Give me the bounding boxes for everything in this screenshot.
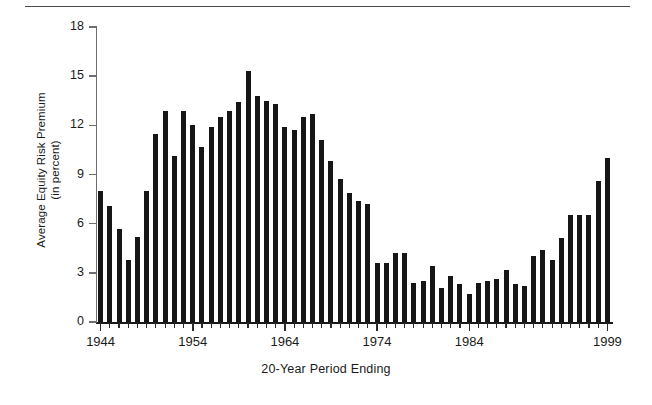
x-axis-tick-label: 1964: [255, 334, 315, 349]
bar: [126, 260, 131, 322]
x-axis-minor-tick: [247, 323, 248, 328]
x-axis-tick-label: 1999: [577, 334, 637, 349]
x-axis-minor-tick: [367, 323, 368, 328]
x-axis-minor-tick: [229, 323, 230, 328]
bar: [98, 191, 103, 322]
bar: [264, 101, 269, 322]
bar: [485, 281, 490, 322]
bar: [273, 104, 278, 322]
x-axis-minor-tick: [515, 323, 516, 328]
x-axis-minor-tick: [201, 323, 202, 328]
x-axis-major-tick: [100, 323, 101, 331]
bar: [494, 279, 499, 322]
bar: [117, 229, 122, 322]
bar: [586, 215, 591, 322]
x-axis-minor-tick: [321, 323, 322, 328]
x-axis-tick-label: 1984: [439, 334, 499, 349]
bar: [540, 250, 545, 322]
bar: [190, 125, 195, 322]
x-axis-minor-tick: [459, 323, 460, 328]
x-axis-minor-tick: [312, 323, 313, 328]
x-axis-minor-tick: [275, 323, 276, 328]
x-axis-minor-tick: [257, 323, 258, 328]
bar: [292, 130, 297, 322]
bar: [421, 281, 426, 322]
bar: [356, 201, 361, 322]
x-axis-minor-tick: [349, 323, 350, 328]
x-axis-minor-tick: [266, 323, 267, 328]
x-axis-minor-tick: [183, 323, 184, 328]
bar: [393, 253, 398, 322]
x-axis-minor-tick: [404, 323, 405, 328]
bar: [107, 206, 112, 322]
x-axis-minor-tick: [441, 323, 442, 328]
x-axis-minor-tick: [533, 323, 534, 328]
x-axis-minor-tick: [395, 323, 396, 328]
bar: [310, 114, 315, 322]
bar: [365, 204, 370, 322]
bar: [430, 266, 435, 322]
x-axis-minor-tick: [109, 323, 110, 328]
bar: [209, 127, 214, 322]
bar: [375, 263, 380, 322]
x-axis-minor-tick: [478, 323, 479, 328]
x-axis-minor-tick: [487, 323, 488, 328]
bar: [282, 127, 287, 322]
x-axis-minor-tick: [542, 323, 543, 328]
x-axis-minor-tick: [146, 323, 147, 328]
x-axis-major-tick: [284, 323, 285, 331]
x-axis-minor-tick: [238, 323, 239, 328]
bar: [439, 288, 444, 322]
x-axis-minor-tick: [137, 323, 138, 328]
bar: [172, 156, 177, 322]
x-axis-title: 20-Year Period Ending: [0, 362, 652, 376]
bar: [605, 158, 610, 322]
bar: [328, 161, 333, 322]
bar: [255, 96, 260, 322]
bar: [347, 193, 352, 322]
bar: [384, 263, 389, 322]
x-axis-minor-tick: [496, 323, 497, 328]
bar: [476, 283, 481, 322]
x-axis-major-tick: [192, 323, 193, 331]
bar: [559, 238, 564, 322]
bar: [181, 111, 186, 322]
x-axis-minor-tick: [588, 323, 589, 328]
x-axis-major-tick: [469, 323, 470, 331]
x-axis-tick-label: 1954: [163, 334, 223, 349]
x-axis-major-tick: [607, 323, 608, 331]
x-axis-minor-tick: [570, 323, 571, 328]
bar: [550, 260, 555, 322]
x-axis-minor-tick: [450, 323, 451, 328]
bar: [135, 237, 140, 322]
bar: [448, 276, 453, 322]
x-axis-minor-tick: [358, 323, 359, 328]
x-axis-minor-tick: [552, 323, 553, 328]
bar: [457, 284, 462, 322]
x-axis-minor-tick: [128, 323, 129, 328]
bar: [531, 256, 536, 322]
bar: [319, 140, 324, 322]
x-axis-minor-tick: [579, 323, 580, 328]
bar: [163, 111, 168, 322]
bar: [522, 286, 527, 322]
bar: [411, 283, 416, 322]
bar: [568, 215, 573, 322]
bar: [199, 147, 204, 322]
bar: [246, 71, 251, 322]
x-axis-minor-tick: [211, 323, 212, 328]
x-axis-minor-tick: [524, 323, 525, 328]
bar: [467, 294, 472, 322]
bar: [227, 111, 232, 322]
x-axis-minor-tick: [423, 323, 424, 328]
x-axis-tick-label: 1974: [347, 334, 407, 349]
x-axis-minor-tick: [505, 323, 506, 328]
x-axis-minor-tick: [165, 323, 166, 328]
bar: [301, 117, 306, 322]
x-axis-minor-tick: [598, 323, 599, 328]
bar: [236, 102, 241, 322]
bar-series: [0, 27, 652, 322]
bar: [504, 270, 509, 322]
x-axis-minor-tick: [303, 323, 304, 328]
x-axis-minor-tick: [432, 323, 433, 328]
